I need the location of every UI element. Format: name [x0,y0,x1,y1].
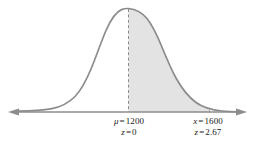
mean-label-group: μ=1200 z=0 [85,116,173,138]
boundary-label-group: x=1600 z=2.67 [164,116,252,138]
shaded-area-region [129,9,210,113]
boundary-value: 1600 [204,116,222,126]
axis-left-arrow-icon [8,109,19,116]
mean-equals-sign: = [119,116,126,126]
mean-symbol: μ [114,116,119,126]
boundary-value-label: x=1600 [164,116,252,127]
mean-z-label: z=0 [85,127,173,138]
normal-distribution-figure: μ=1200 z=0 x=1600 z=2.67 [0,0,253,147]
boundary-z-value: 2.67 [205,127,221,137]
mean-value: 1200 [126,116,144,126]
normal-curve-path [18,8,237,111]
mean-z-value: 0 [132,127,137,137]
mean-value-label: μ=1200 [85,116,173,127]
boundary-z-label: z=2.67 [164,127,252,138]
